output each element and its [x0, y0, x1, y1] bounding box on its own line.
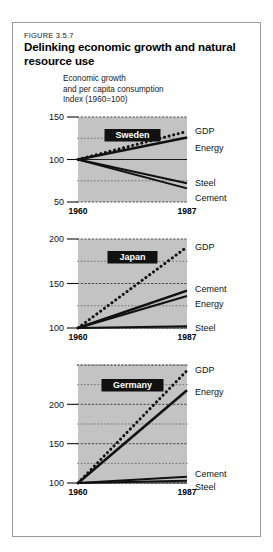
- chart-svg-japan: 100150200GDPCementEnergySteelJapan196019…: [13, 229, 261, 349]
- x-tick-label: 1960: [69, 206, 88, 216]
- series-label-gdp: GDP: [195, 126, 215, 136]
- x-tick-label: 1987: [178, 332, 197, 342]
- chart-panel-japan: 100150200GDPCementEnergySteelJapan196019…: [13, 229, 261, 349]
- series-label-steel: Steel: [195, 323, 216, 333]
- series-label-gdp: GDP: [195, 365, 215, 375]
- series-label-energy: Energy: [195, 299, 224, 309]
- y-tick-label: 200: [49, 234, 64, 244]
- figure-frame: FIGURE 3.5.7 Delinking economic growth a…: [12, 22, 261, 537]
- x-tick-label: 1987: [178, 487, 197, 497]
- series-label-energy: Energy: [195, 387, 224, 397]
- series-label-cement: Cement: [195, 284, 227, 294]
- series-label-energy: Energy: [195, 143, 224, 153]
- index-note: Index (1960=100): [63, 95, 164, 106]
- y-tick-label: 150: [49, 279, 64, 289]
- y-tick-label: 150: [49, 439, 64, 449]
- country-badge-label: Japan: [119, 252, 145, 262]
- chart-panel-germany: 100150200GDPEnergyCementSteelGermany1960…: [13, 355, 261, 507]
- figure-title: Delinking economic growth and natural re…: [24, 41, 250, 68]
- x-tick-label: 1960: [69, 332, 88, 342]
- country-badge-label: Germany: [113, 380, 152, 390]
- chart-svg-sweden: 50100150GDPEnergySteelCementSweden196019…: [13, 107, 261, 223]
- y-tick-label: 150: [49, 112, 64, 122]
- chart-panel-sweden: 50100150GDPEnergySteelCementSweden196019…: [13, 107, 261, 223]
- series-label-steel: Steel: [195, 178, 216, 188]
- y-tick-label: 50: [54, 197, 64, 207]
- series-label-cement: Cement: [195, 193, 227, 203]
- subtitle-line-1: Economic growth: [63, 74, 164, 85]
- y-tick-label: 200: [49, 400, 64, 410]
- y-tick-label: 100: [49, 155, 64, 165]
- series-label-cement: Cement: [195, 469, 227, 479]
- chart-svg-germany: 100150200GDPEnergyCementSteelGermany1960…: [13, 355, 261, 507]
- y-tick-label: 100: [49, 323, 64, 333]
- x-tick-label: 1987: [178, 206, 197, 216]
- y-tick-label: 100: [49, 478, 64, 488]
- series-label-gdp: GDP: [195, 242, 215, 252]
- figure-subtitle-block: Economic growth and per capita consumpti…: [63, 74, 164, 106]
- subtitle-line-2: and per capita consumption: [63, 85, 164, 96]
- country-badge-label: Sweden: [115, 130, 149, 140]
- series-label-steel: Steel: [195, 482, 216, 492]
- x-tick-label: 1960: [69, 487, 88, 497]
- figure-number: FIGURE 3.5.7: [24, 31, 74, 40]
